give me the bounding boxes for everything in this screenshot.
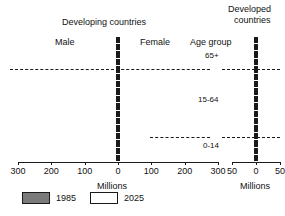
x-tick-label: 100 (144, 166, 159, 176)
x-tick-mark (280, 162, 281, 165)
bar-1985-female (118, 103, 120, 109)
pyramid-row (18, 36, 218, 43)
pyramid-row (232, 95, 280, 102)
bar-1985-female (256, 59, 258, 65)
bar-1985-female (256, 155, 258, 161)
pyramid-row (232, 110, 280, 117)
bar-1985-female (118, 155, 120, 161)
pyramid-row (232, 88, 280, 95)
bar-1985-female (118, 59, 120, 65)
bar-1985-female (256, 81, 258, 87)
x-tick-label: 300 (210, 166, 225, 176)
x-tick-label: 100 (77, 166, 92, 176)
x-axis-title-developing: Millions (97, 181, 127, 191)
pyramid-row (232, 73, 280, 80)
chart-legend: 19852025 (22, 192, 152, 204)
age-divider-0-14-right (222, 137, 280, 138)
pyramid-row (18, 125, 218, 132)
bar-1985-female (118, 111, 120, 117)
x-tick-label: 50 (227, 166, 237, 176)
pyramid-row (232, 80, 280, 87)
bar-1985-female (118, 88, 120, 94)
bar-1985-female (118, 51, 120, 57)
x-tick-mark (85, 162, 86, 165)
pyramid-row (18, 43, 218, 50)
bar-1985-female (256, 125, 258, 131)
bar-1985-female (256, 74, 258, 80)
bar-1985-female (118, 81, 120, 87)
pyramid-row (18, 117, 218, 124)
bar-1985-female (256, 111, 258, 117)
x-tick-mark (151, 162, 152, 165)
bar-1985-female (256, 44, 258, 50)
x-tick-mark (51, 162, 52, 165)
legend-swatch-1985 (22, 192, 50, 204)
pyramid-row (18, 58, 218, 65)
pyramid-row (232, 132, 280, 139)
bar-1985-female (118, 118, 120, 124)
bar-1985-female (256, 103, 258, 109)
x-tick-mark (185, 162, 186, 165)
pyramid-row (18, 140, 218, 147)
pyramid-row (18, 88, 218, 95)
bar-1985-female (118, 96, 120, 102)
pyramid-row (232, 125, 280, 132)
bar-1985-female (256, 133, 258, 139)
bar-1985-female (256, 88, 258, 94)
age-divider-65plus-right (222, 69, 280, 70)
pyramid-rows-developing (18, 36, 218, 162)
x-tick-label: 200 (44, 166, 59, 176)
x-tick-mark (218, 162, 219, 165)
chart-title-developing: Developing countries (62, 18, 146, 27)
age-divider-65plus-left (10, 69, 210, 70)
pyramid-row (232, 43, 280, 50)
bar-1985-female (118, 74, 120, 80)
x-axis-title-developed: Millions (240, 181, 270, 191)
bar-1985-female (118, 148, 120, 154)
x-tick-mark (256, 162, 257, 165)
bar-1985-female (118, 37, 120, 43)
pyramid-row (18, 103, 218, 110)
pyramid-row (18, 110, 218, 117)
chart-title-developed-line2: countries (234, 16, 271, 25)
bar-1985-female (118, 125, 120, 131)
legend-label-1985: 1985 (56, 193, 76, 203)
pyramid-row (232, 36, 280, 43)
x-tick-label: 200 (177, 166, 192, 176)
bar-1985-female (118, 133, 120, 139)
pyramid-row (18, 51, 218, 58)
pyramid-row (232, 117, 280, 124)
bar-1985-female (256, 148, 258, 154)
pyramid-rows-developed (232, 36, 280, 162)
pyramid-row (232, 51, 280, 58)
bar-1985-female (256, 51, 258, 57)
x-tick-label: 50 (275, 166, 285, 176)
population-pyramid-figure: Developing countries Developed countries… (0, 0, 285, 216)
legend-swatch-2025 (90, 192, 118, 204)
pyramid-row (232, 155, 280, 162)
bar-1985-female (256, 96, 258, 102)
pyramid-row (18, 147, 218, 154)
pyramid-row (232, 103, 280, 110)
panel-developed-countries (232, 36, 280, 162)
pyramid-row (18, 73, 218, 80)
x-tick-mark (18, 162, 19, 165)
x-tick-label: 0 (115, 166, 120, 176)
chart-title-developed-line1: Developed (228, 5, 271, 14)
pyramid-row (18, 155, 218, 162)
bar-1985-female (256, 118, 258, 124)
bar-1985-female (256, 140, 258, 146)
pyramid-row (232, 58, 280, 65)
age-divider-0-14-left (150, 137, 210, 138)
pyramid-row (232, 140, 280, 147)
bar-1985-female (118, 140, 120, 146)
legend-label-2025: 2025 (124, 193, 144, 203)
x-tick-label: 300 (10, 166, 25, 176)
bar-1985-female (256, 37, 258, 43)
pyramid-row (18, 80, 218, 87)
panel-developing-countries (18, 36, 218, 162)
pyramid-row (232, 147, 280, 154)
pyramid-row (18, 132, 218, 139)
x-tick-mark (118, 162, 119, 165)
x-tick-mark (232, 162, 233, 165)
